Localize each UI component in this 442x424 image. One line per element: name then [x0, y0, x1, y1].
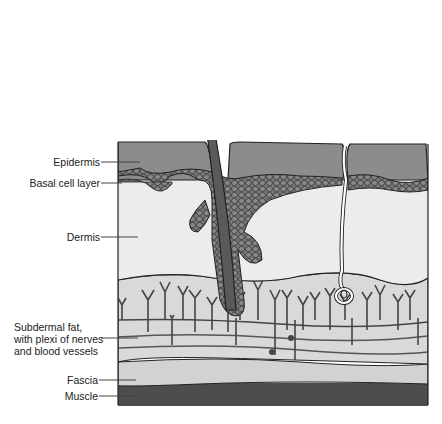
label-subdermal-line-1: Subdermal fat, — [14, 321, 103, 333]
label-fascia: Fascia — [67, 374, 98, 386]
label-basal-cell-layer: Basal cell layer — [29, 177, 100, 189]
label-subdermal-line-3: and blood vessels — [14, 345, 103, 357]
skin-cross-section-diagram — [0, 0, 442, 424]
label-subdermal-fat: Subdermal fat, with plexi of nerves and … — [14, 321, 103, 357]
label-subdermal-line-2: with plexi of nerves — [14, 333, 103, 345]
muscle-layer — [118, 383, 428, 406]
label-epidermis: Epidermis — [53, 156, 100, 168]
label-muscle: Muscle — [65, 390, 98, 402]
label-dermis: Dermis — [67, 231, 100, 243]
